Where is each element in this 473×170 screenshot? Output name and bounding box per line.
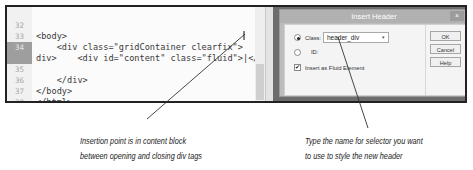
code-line-38[interactable]: 38 [7, 86, 265, 97]
code-line-36[interactable]: 36 </body> [7, 64, 265, 75]
class-combobox[interactable]: header_div ▾ [323, 32, 389, 43]
ok-button[interactable]: OK [430, 31, 461, 41]
id-radio[interactable] [294, 49, 301, 56]
caption-class-line1: Type the name for selector you want [305, 135, 423, 147]
class-radio[interactable] [294, 34, 301, 41]
caption-class-line2: to use to style the new header [305, 150, 403, 162]
help-button[interactable]: Help [430, 57, 461, 67]
dialog-separator [425, 25, 426, 95]
code-text: </html> [36, 97, 72, 103]
caption-insertion-line2: between opening and closing div tags [80, 150, 202, 162]
line-number: 38 [7, 97, 32, 103]
dialog-title: Insert Header [280, 10, 467, 23]
editor-scrollbar-thumb[interactable] [256, 64, 264, 100]
code-editor[interactable]: 32 <body> 33 <div class="gridContainer c… [7, 7, 265, 101]
chevron-down-icon[interactable]: ▾ [382, 33, 385, 42]
dialog-body: Class: header_div ▾ ID: ✔ Insert as Flui… [284, 24, 466, 96]
code-line-32[interactable]: 32 <body> [7, 9, 265, 20]
fluid-element-checkbox[interactable]: ✔ [294, 64, 301, 71]
code-line-33[interactable]: 33 <div class="gridContainer clearfix"> [7, 20, 265, 31]
close-icon[interactable]: × [450, 11, 464, 21]
fluid-element-label: Insert as Fluid Element [305, 64, 364, 72]
cancel-button[interactable]: Cancel [430, 44, 461, 54]
code-line-34[interactable]: 34 <div id="content" class="fluid">|</ [7, 31, 265, 42]
code-line-37[interactable]: 37 </html> [7, 75, 265, 86]
caption-insertion-line1: Insertion point is in content block [80, 135, 186, 147]
code-line-34-wrap[interactable]: div> [7, 42, 265, 53]
insert-header-dialog: Insert Header × Class: header_div ▾ ID: … [279, 9, 467, 97]
id-label: ID: [311, 48, 318, 56]
code-line-35[interactable]: 35 </div> [7, 53, 265, 64]
class-label: Class: [305, 34, 321, 42]
screenshot-frame: 32 <body> 33 <div class="gridContainer c… [5, 5, 467, 103]
class-value: header_div [327, 34, 359, 41]
